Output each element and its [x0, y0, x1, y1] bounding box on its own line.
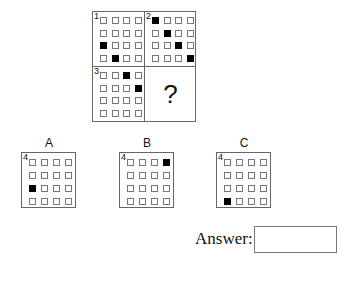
empty-cell — [123, 110, 130, 117]
empty-cell — [29, 198, 36, 205]
panel-missing: ? — [145, 67, 196, 122]
empty-cell — [175, 17, 182, 24]
cell-grid — [100, 72, 143, 118]
empty-cell — [175, 55, 182, 62]
panel-number: 2 — [146, 11, 151, 21]
empty-cell — [53, 185, 60, 192]
empty-cell — [29, 159, 36, 166]
panel-number: 4 — [218, 152, 223, 162]
empty-cell — [100, 97, 107, 104]
empty-cell — [100, 55, 107, 62]
empty-cell — [187, 30, 194, 37]
empty-cell — [163, 185, 170, 192]
empty-cell — [164, 42, 171, 49]
empty-cell — [135, 72, 142, 79]
empty-cell — [123, 42, 130, 49]
option-a[interactable]: A 4 — [21, 136, 77, 208]
empty-cell — [123, 17, 130, 24]
empty-cell — [139, 172, 146, 179]
option-c[interactable]: C 4 — [216, 136, 272, 208]
filled-cell — [164, 30, 171, 37]
empty-cell — [123, 30, 130, 37]
empty-cell — [127, 172, 134, 179]
empty-cell — [135, 97, 142, 104]
option-box[interactable]: 4 — [216, 152, 271, 208]
empty-cell — [224, 172, 231, 179]
empty-cell — [112, 30, 119, 37]
panel-number: 4 — [23, 152, 28, 162]
empty-cell — [139, 185, 146, 192]
cell-grid — [224, 159, 268, 206]
empty-cell — [224, 159, 231, 166]
option-label: A — [21, 136, 77, 152]
empty-cell — [151, 185, 158, 192]
empty-cell — [65, 185, 72, 192]
empty-cell — [135, 42, 142, 49]
empty-cell — [152, 30, 159, 37]
filled-cell — [29, 185, 36, 192]
question-mark: ? — [145, 79, 196, 109]
empty-cell — [260, 185, 267, 192]
empty-cell — [135, 30, 142, 37]
panel-number: 4 — [121, 152, 126, 162]
filled-cell — [163, 159, 170, 166]
filled-cell — [152, 17, 159, 24]
empty-cell — [224, 185, 231, 192]
empty-cell — [100, 17, 107, 24]
option-b[interactable]: B 4 — [119, 136, 175, 208]
option-box[interactable]: 4 — [119, 152, 174, 208]
cell-grid — [100, 17, 143, 63]
empty-cell — [29, 172, 36, 179]
empty-cell — [127, 198, 134, 205]
empty-cell — [151, 172, 158, 179]
empty-cell — [248, 198, 255, 205]
cell-grid — [29, 159, 73, 206]
empty-cell — [164, 55, 171, 62]
filled-cell — [224, 198, 231, 205]
empty-cell — [139, 159, 146, 166]
empty-cell — [123, 97, 130, 104]
empty-cell — [112, 72, 119, 79]
answer-input[interactable] — [254, 226, 337, 253]
puzzle-grid: 1 2 3 ? — [92, 11, 196, 122]
empty-cell — [112, 110, 119, 117]
panel-number: 1 — [94, 11, 99, 21]
empty-cell — [163, 198, 170, 205]
empty-cell — [151, 198, 158, 205]
empty-cell — [100, 110, 107, 117]
filled-cell — [112, 55, 119, 62]
empty-cell — [112, 17, 119, 24]
empty-cell — [123, 55, 130, 62]
filled-cell — [175, 42, 182, 49]
panel-2: 2 — [145, 12, 196, 67]
panel-3: 3 — [93, 67, 145, 122]
empty-cell — [65, 159, 72, 166]
filled-cell — [100, 42, 107, 49]
empty-cell — [100, 72, 107, 79]
empty-cell — [248, 185, 255, 192]
empty-cell — [139, 198, 146, 205]
empty-cell — [41, 159, 48, 166]
empty-cell — [41, 198, 48, 205]
empty-cell — [65, 198, 72, 205]
filled-cell — [135, 85, 142, 92]
option-box[interactable]: 4 — [21, 152, 76, 208]
empty-cell — [152, 42, 159, 49]
empty-cell — [65, 172, 72, 179]
empty-cell — [248, 159, 255, 166]
empty-cell — [152, 55, 159, 62]
empty-cell — [127, 159, 134, 166]
empty-cell — [112, 97, 119, 104]
empty-cell — [260, 198, 267, 205]
panel-1: 1 — [93, 12, 145, 67]
empty-cell — [53, 159, 60, 166]
option-label: C — [216, 136, 272, 152]
empty-cell — [53, 172, 60, 179]
filled-cell — [187, 55, 194, 62]
empty-cell — [100, 85, 107, 92]
option-label: B — [119, 136, 175, 152]
empty-cell — [236, 185, 243, 192]
empty-cell — [260, 159, 267, 166]
empty-cell — [187, 42, 194, 49]
filled-cell — [123, 72, 130, 79]
